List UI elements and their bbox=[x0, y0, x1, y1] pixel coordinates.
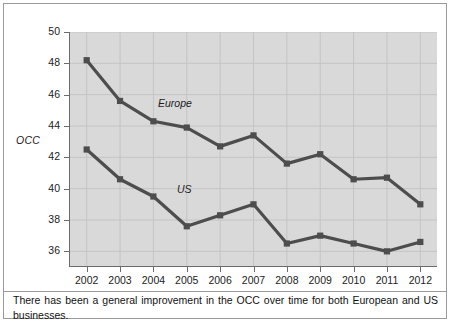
y-tick-label: 38 bbox=[20, 214, 60, 225]
y-tick-label: 48 bbox=[20, 57, 60, 68]
x-tick-mark bbox=[187, 267, 188, 272]
chart-container: 3638404244464850 20022003200420052006200… bbox=[4, 4, 446, 272]
x-tick-mark bbox=[287, 267, 288, 272]
y-tick-label: 42 bbox=[20, 151, 60, 162]
x-tick-mark bbox=[387, 267, 388, 272]
y-tick-mark bbox=[64, 32, 69, 33]
y-tick-mark bbox=[64, 95, 69, 96]
x-tick-mark bbox=[254, 267, 255, 272]
y-tick-mark bbox=[64, 126, 69, 127]
y-tick-mark bbox=[64, 189, 69, 190]
series-label-europe: Europe bbox=[158, 97, 192, 109]
y-tick-label: 44 bbox=[20, 120, 60, 131]
x-tick-mark bbox=[87, 267, 88, 272]
x-tick-mark bbox=[354, 267, 355, 272]
y-axis-title: OCC bbox=[16, 134, 40, 146]
y-tick-mark bbox=[64, 251, 69, 252]
caption-box: There has been a general improvement in … bbox=[4, 291, 446, 318]
x-tick-mark bbox=[153, 267, 154, 272]
y-axis bbox=[69, 32, 70, 267]
x-tick-label: 2012 bbox=[400, 275, 440, 286]
y-tick-mark bbox=[64, 157, 69, 158]
x-tick-mark bbox=[420, 267, 421, 272]
y-tick-label: 46 bbox=[20, 89, 60, 100]
y-tick-label: 36 bbox=[20, 245, 60, 256]
x-tick-mark bbox=[220, 267, 221, 272]
x-tick-mark bbox=[320, 267, 321, 272]
series-label-us: US bbox=[177, 183, 192, 195]
y-tick-mark bbox=[64, 63, 69, 64]
x-tick-mark bbox=[120, 267, 121, 272]
y-tick-mark bbox=[64, 220, 69, 221]
figure-panel: 3638404244464850 20022003200420052006200… bbox=[3, 3, 447, 319]
series-lines bbox=[70, 32, 437, 267]
caption-text: There has been a general improvement in … bbox=[13, 293, 438, 323]
y-tick-label: 50 bbox=[20, 26, 60, 37]
plot-area bbox=[70, 32, 437, 267]
y-tick-label: 40 bbox=[20, 183, 60, 194]
